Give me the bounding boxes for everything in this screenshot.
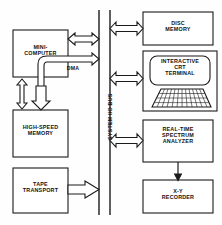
arrow-bus-disc-memory: [110, 22, 143, 35]
block-diagram-canvas: MINI- COMPUTER HIGH-SPEED MEMORY TAPE TR…: [0, 0, 222, 225]
arrow-minicomputer-memory: [17, 79, 27, 109]
block-spectrum-analyzer: [143, 120, 213, 162]
crt-screen: [150, 56, 210, 85]
arrow-dma-to-memory: [32, 86, 50, 110]
arrow-tape-to-bus: [68, 181, 99, 198]
arrow-bus-crt-terminal: [110, 72, 143, 85]
block-xy-recorder: [143, 180, 213, 213]
arrow-minicomputer-bus: [68, 33, 99, 45]
arrow-analyzer-to-recorder: [175, 162, 182, 181]
diagram-vector-layer: [0, 0, 222, 225]
arrow-bus-spectrum-analyzer: [110, 134, 143, 147]
block-tape-transport: [13, 168, 68, 213]
block-disc-memory: [143, 12, 213, 45]
dma-path: [38, 53, 99, 104]
block-high-speed-memory: [13, 110, 68, 157]
